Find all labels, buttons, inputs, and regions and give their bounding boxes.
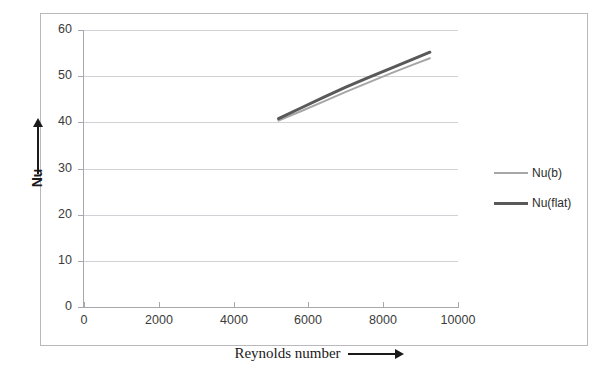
y-tick-label-30: 30 xyxy=(38,161,72,175)
x-tick-label-4000: 4000 xyxy=(199,313,269,327)
x-tick-label-6000: 6000 xyxy=(273,313,343,327)
y-tick-mark-50 xyxy=(78,76,84,77)
x-axis-line xyxy=(84,307,459,308)
x-axis-title-label: Reynolds number xyxy=(234,345,340,362)
y-tick-mark-30 xyxy=(78,169,84,170)
x-tick-label-8000: 8000 xyxy=(348,313,418,327)
x-tick-mark-6000 xyxy=(308,302,309,308)
y-tick-label-20: 20 xyxy=(38,207,72,221)
cropped-title-strip xyxy=(0,0,611,11)
legend-swatch-icon xyxy=(494,202,528,205)
gridline-y-40 xyxy=(84,122,458,123)
y-tick-label-10: 10 xyxy=(38,253,72,267)
x-tick-mark-4000 xyxy=(234,302,235,308)
x-axis-title: Reynolds number xyxy=(160,345,470,362)
y-tick-mark-60 xyxy=(78,30,84,31)
legend-item-nuflat[interactable]: Nu(flat) xyxy=(494,188,582,218)
x-tick-label-0: 0 xyxy=(49,313,119,327)
x-tick-mark-8000 xyxy=(383,302,384,308)
legend-label: Nu(b) xyxy=(532,166,562,180)
gridline-y-60 xyxy=(84,30,458,31)
y-tick-label-50: 50 xyxy=(38,68,72,82)
y-tick-label-60: 60 xyxy=(38,22,72,36)
x-tick-mark-10000 xyxy=(458,302,459,308)
y-axis-title-label: Nu xyxy=(29,138,45,218)
y-tick-mark-40 xyxy=(78,122,84,123)
x-tick-label-2000: 2000 xyxy=(124,313,194,327)
x-axis-arrow-icon xyxy=(348,353,396,355)
y-tick-label-0: 0 xyxy=(38,299,72,313)
x-tick-mark-0 xyxy=(84,302,85,308)
y-tick-mark-10 xyxy=(78,261,84,262)
gridline-y-20 xyxy=(84,215,458,216)
x-tick-mark-2000 xyxy=(159,302,160,308)
gridline-y-30 xyxy=(84,169,458,170)
legend-swatch-icon xyxy=(494,172,528,174)
gridline-y-50 xyxy=(84,76,458,77)
legend-label: Nu(flat) xyxy=(532,196,571,210)
gridline-y-10 xyxy=(84,261,458,262)
legend-item-nub[interactable]: Nu(b) xyxy=(494,158,582,188)
y-tick-label-40: 40 xyxy=(38,114,72,128)
y-tick-mark-20 xyxy=(78,215,84,216)
x-tick-label-10000: 10000 xyxy=(423,313,493,327)
chart-legend: Nu(b)Nu(flat) xyxy=(494,158,582,218)
